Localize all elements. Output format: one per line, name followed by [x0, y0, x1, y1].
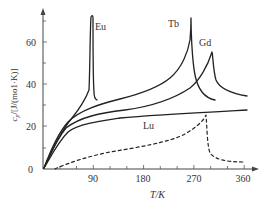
- y-axis-label: cp/[J/(mo1·K)]: [9, 69, 20, 122]
- curve-eu: [44, 16, 97, 168]
- series-labels: Eu Tb Gd Lu: [95, 18, 211, 131]
- xtick-180: 180: [136, 173, 151, 184]
- curve-tb: [44, 18, 215, 168]
- label-tb: Tb: [168, 18, 179, 29]
- y-ticks: [43, 21, 47, 148]
- tick-labels: 0 20 40 60 90 180 270 360: [26, 37, 251, 184]
- xtick-270: 270: [187, 173, 202, 184]
- xtick-360: 360: [236, 173, 251, 184]
- label-gd: Gd: [199, 37, 211, 48]
- ytick-0: 0: [28, 164, 33, 175]
- curve-gd: [44, 52, 247, 168]
- x-axis-label: T/K: [150, 189, 166, 200]
- ytick-60: 60: [26, 37, 36, 48]
- x-axis-arrow-icon: [252, 167, 259, 172]
- ytick-40: 40: [26, 79, 36, 90]
- x-ticks: [60, 165, 244, 169]
- y-axis-arrow-icon: [41, 8, 46, 15]
- svg-text:cp/[J/(mo1·K)]: cp/[J/(mo1·K)]: [9, 69, 20, 122]
- heat-capacity-chart: 0 20 40 60 90 180 270 360 T/K cp/[J/(mo1…: [0, 0, 263, 203]
- label-lu: Lu: [143, 120, 154, 131]
- label-eu: Eu: [95, 21, 106, 32]
- curve-lu: [44, 110, 247, 168]
- ytick-20: 20: [26, 121, 36, 132]
- xtick-90: 90: [88, 173, 98, 184]
